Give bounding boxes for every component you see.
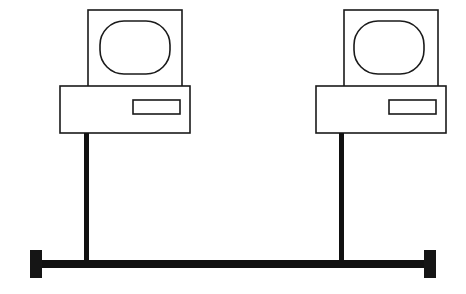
monitor-screen-left [100, 21, 170, 74]
floppy-drive-slot-right [389, 100, 436, 114]
computer-node-right[interactable] [316, 10, 446, 264]
drop-cable-left [84, 133, 89, 264]
floppy-drive-slot-left [133, 100, 180, 114]
bus-terminator-right [424, 250, 436, 278]
computer-node-left[interactable] [60, 10, 190, 264]
monitor-screen-right [354, 21, 424, 74]
diagram-svg-surface [0, 0, 466, 294]
bus-topology-diagram: Bus Topology Network Diagram Bus [0, 0, 466, 294]
bus-backbone-line [31, 260, 435, 268]
drop-cable-right [339, 133, 344, 264]
bus-terminator-left [30, 250, 42, 278]
